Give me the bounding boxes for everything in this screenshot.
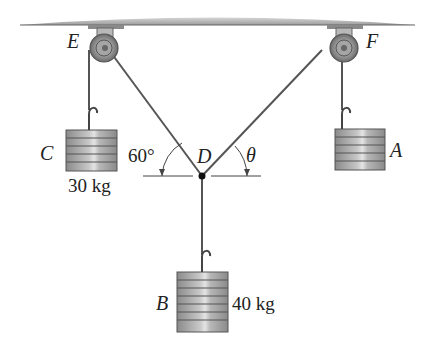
cable-F-D [202, 50, 322, 176]
label-E: E [66, 30, 79, 52]
cables [89, 50, 342, 255]
label-C: C [40, 142, 54, 164]
pulley-F [327, 25, 363, 62]
weight-C [66, 108, 117, 171]
mass-B: 40 kg [232, 293, 275, 314]
mass-C: 30 kg [68, 175, 111, 196]
ceiling [20, 18, 415, 26]
cable-E-D [109, 50, 202, 176]
statics-diagram: E F D C A B 30 kg 40 kg 60° θ [0, 0, 429, 349]
node-D [199, 173, 206, 180]
label-B: B [156, 292, 168, 314]
angle-60-label: 60° [128, 145, 155, 166]
weight-B [177, 251, 228, 332]
label-A: A [388, 139, 403, 161]
label-D: D [196, 145, 212, 167]
pulley-E [88, 25, 124, 62]
angle-arc-60 [162, 143, 182, 176]
angle-theta-label: θ [246, 144, 256, 166]
label-F: F [365, 30, 379, 52]
weight-A [335, 108, 385, 170]
